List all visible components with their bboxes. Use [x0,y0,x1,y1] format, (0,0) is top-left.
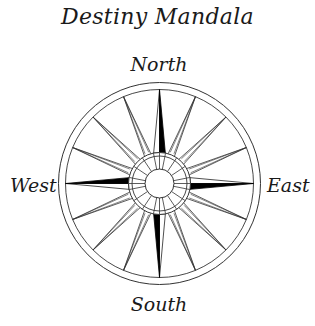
compass-rose-icon [0,0,315,326]
